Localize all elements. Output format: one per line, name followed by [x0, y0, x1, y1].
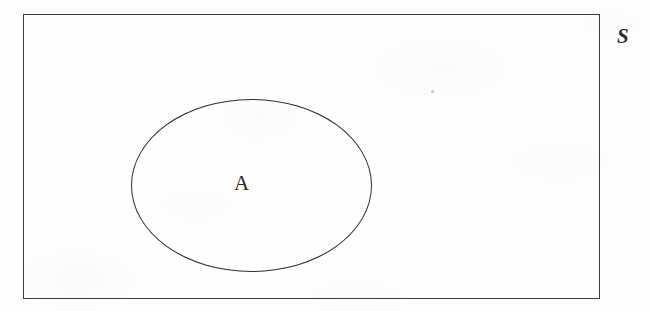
set-a-label: A — [234, 173, 249, 194]
venn-diagram-canvas: A S — [0, 0, 650, 311]
universal-set-label: S — [617, 26, 629, 47]
set-a-ellipse — [131, 99, 372, 272]
scan-speck-artifact — [431, 90, 434, 93]
